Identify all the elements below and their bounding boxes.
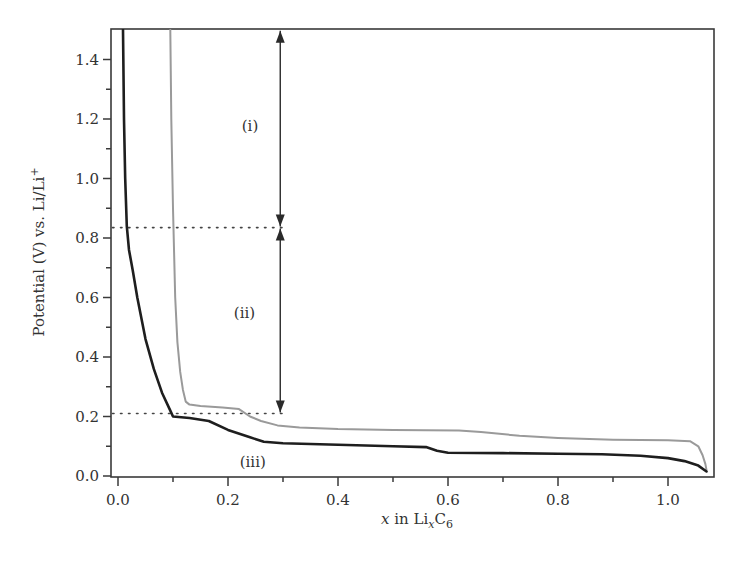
y-tick-label: 1.2	[75, 110, 99, 128]
y-tick-label: 1.4	[75, 51, 99, 69]
x-axis-title: x in LixC6	[381, 510, 453, 531]
x-tick-label: 0.0	[106, 491, 130, 509]
arrowhead-down-icon	[276, 401, 285, 413]
region-arrows	[276, 31, 285, 413]
arrowhead-down-icon	[276, 215, 285, 227]
x-tick-label: 0.8	[546, 491, 570, 509]
y-tick-label: 0.4	[75, 348, 99, 366]
series-line	[123, 30, 707, 472]
y-tick-label: 0.8	[75, 229, 99, 247]
y-tick-label: 0.6	[75, 289, 99, 307]
region-ii-label: (ii)	[234, 304, 255, 322]
y-tick-label: 0.2	[75, 408, 99, 426]
plot-border	[111, 29, 714, 477]
y-tick-label: 0.0	[75, 467, 99, 485]
y-tick-label: 1.0	[75, 170, 99, 188]
y-axis-title: Potential (V) vs. Li/Li+	[28, 167, 48, 336]
x-tick-label: 0.2	[216, 491, 240, 509]
reference-lines	[113, 228, 286, 414]
y-axis: 0.00.20.40.60.81.01.21.4	[75, 51, 111, 486]
x-axis: 0.00.20.40.60.81.0	[106, 477, 680, 509]
arrowhead-up-icon	[276, 31, 285, 43]
data-series	[123, 30, 707, 472]
arrowhead-up-icon	[276, 229, 285, 241]
x-tick-label: 0.4	[326, 491, 350, 509]
region-i-label: (i)	[242, 117, 259, 135]
plot-frame	[111, 29, 714, 477]
region-iii-label: (iii)	[240, 453, 266, 471]
series-line	[170, 30, 706, 470]
x-tick-label: 0.6	[436, 491, 460, 509]
x-tick-label: 1.0	[656, 491, 680, 509]
chart-canvas: 0.00.20.40.60.81.0 0.00.20.40.60.81.01.2…	[0, 0, 741, 576]
